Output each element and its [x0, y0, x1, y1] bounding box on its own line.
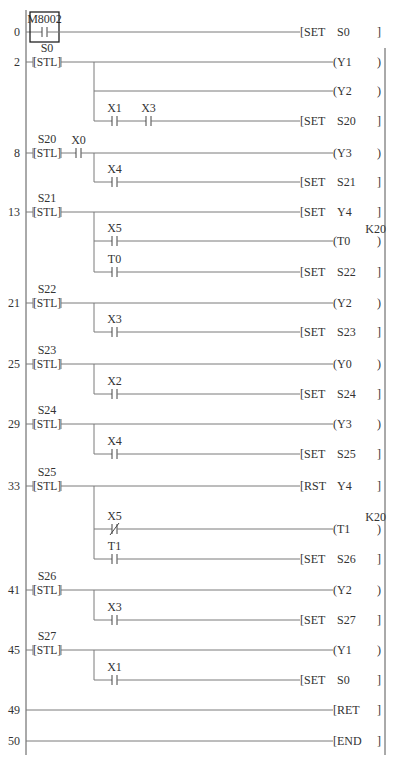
contact-label: X3 — [107, 312, 122, 326]
step-number: 8 — [14, 146, 20, 160]
contact-label: M8002 — [27, 12, 62, 26]
step-number: 45 — [8, 643, 20, 657]
output-coil: (T0 — [333, 234, 350, 248]
stl-state-label: S21 — [38, 191, 57, 205]
stl-state-label: S24 — [38, 403, 57, 417]
function-instruction: [SET — [300, 673, 326, 687]
stl-state-label: S20 — [38, 132, 57, 146]
stl-instruction: [STL] — [33, 358, 61, 370]
output-coil: (Y1 — [333, 643, 352, 657]
contact-label: T0 — [108, 252, 121, 266]
timer-constant: K20 — [365, 510, 386, 524]
contact-label: X0 — [71, 133, 86, 147]
instruction-operand: Y4 — [337, 205, 352, 219]
stl-state-label: S25 — [38, 465, 57, 479]
instruction-operand: S22 — [337, 265, 356, 279]
instruction-operand: Y4 — [337, 479, 352, 493]
stl-state-label: S0 — [41, 41, 54, 55]
instruction-operand: S26 — [337, 552, 356, 566]
coil-close-paren: ) — [377, 55, 381, 69]
step-number: 41 — [8, 583, 20, 597]
function-instruction: [RET — [333, 703, 360, 717]
step-number: 50 — [8, 734, 20, 748]
contact-label: X4 — [107, 434, 122, 448]
stl-instruction: [STL] — [33, 297, 61, 309]
coil-close-paren: ) — [377, 357, 381, 371]
output-coil: (Y2 — [333, 84, 352, 98]
function-instruction: [SET — [300, 387, 326, 401]
instruction-operand: S0 — [337, 673, 350, 687]
output-coil: (Y3 — [333, 417, 352, 431]
stl-instruction: [STL] — [33, 147, 61, 159]
output-coil: (Y3 — [333, 146, 352, 160]
stl-state-label: S23 — [38, 343, 57, 357]
step-number: 29 — [8, 417, 20, 431]
instruction-close-bracket: ] — [377, 205, 381, 219]
stl-state-label: S27 — [38, 629, 57, 643]
output-coil: (T1 — [333, 522, 350, 536]
coil-close-paren: ) — [377, 522, 381, 536]
stl-instruction: [STL] — [33, 480, 61, 492]
instruction-operand: S20 — [337, 114, 356, 128]
function-instruction: [RST — [300, 479, 327, 493]
stl-instruction: [STL] — [33, 56, 61, 68]
ladder-diagram: 0M8002[SETS0]2[STL]S0(Y1)(Y2)X1X3[SETS20… — [0, 0, 393, 764]
contact-label: X5 — [107, 509, 122, 523]
function-instruction: [SET — [300, 447, 326, 461]
instruction-operand: S23 — [337, 325, 356, 339]
step-number: 25 — [8, 357, 20, 371]
function-instruction: [SET — [300, 114, 326, 128]
instruction-operand: S24 — [337, 387, 356, 401]
coil-close-paren: ) — [377, 146, 381, 160]
contact-label: X5 — [107, 221, 122, 235]
step-number: 2 — [14, 55, 20, 69]
output-coil: (Y1 — [333, 55, 352, 69]
contact-label: X2 — [107, 374, 122, 388]
coil-close-paren: ) — [377, 234, 381, 248]
function-instruction: [SET — [300, 265, 326, 279]
instruction-close-bracket: ] — [377, 613, 381, 627]
coil-close-paren: ) — [377, 84, 381, 98]
instruction-close-bracket: ] — [377, 175, 381, 189]
instruction-close-bracket: ] — [377, 447, 381, 461]
contact-label: X4 — [107, 162, 122, 176]
contact-label: X1 — [107, 660, 122, 674]
output-coil: (Y0 — [333, 357, 352, 371]
stl-instruction: [STL] — [33, 418, 61, 430]
coil-close-paren: ) — [377, 296, 381, 310]
contact-label: X3 — [107, 600, 122, 614]
step-number: 0 — [14, 25, 20, 39]
function-instruction: [SET — [300, 175, 326, 189]
instruction-operand: S0 — [337, 25, 350, 39]
stl-instruction: [STL] — [33, 584, 61, 596]
stl-instruction: [STL] — [33, 644, 61, 656]
ladder-canvas: 0M8002[SETS0]2[STL]S0(Y1)(Y2)X1X3[SETS20… — [0, 0, 393, 764]
timer-constant: K20 — [365, 222, 386, 236]
contact-label: T1 — [108, 539, 121, 553]
function-instruction: [SET — [300, 613, 326, 627]
stl-state-label: S26 — [38, 569, 57, 583]
coil-close-paren: ) — [377, 583, 381, 597]
coil-close-paren: ) — [377, 417, 381, 431]
function-instruction: [SET — [300, 205, 326, 219]
function-instruction: [SET — [300, 325, 326, 339]
output-coil: (Y2 — [333, 296, 352, 310]
function-instruction: [SET — [300, 25, 326, 39]
contact-label: X1 — [107, 101, 122, 115]
coil-close-paren: ) — [377, 643, 381, 657]
stl-instruction: [STL] — [33, 206, 61, 218]
function-instruction: [END — [333, 734, 362, 748]
instruction-close-bracket: ] — [377, 552, 381, 566]
instruction-close-bracket: ] — [377, 325, 381, 339]
output-coil: (Y2 — [333, 583, 352, 597]
instruction-operand: S25 — [337, 447, 356, 461]
instruction-close-bracket: ] — [377, 479, 381, 493]
instruction-operand: S21 — [337, 175, 356, 189]
step-number: 49 — [8, 703, 20, 717]
instruction-close-bracket: ] — [377, 734, 381, 748]
function-instruction: [SET — [300, 552, 326, 566]
instruction-close-bracket: ] — [377, 673, 381, 687]
step-number: 33 — [8, 479, 20, 493]
step-number: 13 — [8, 205, 20, 219]
stl-state-label: S22 — [38, 282, 57, 296]
